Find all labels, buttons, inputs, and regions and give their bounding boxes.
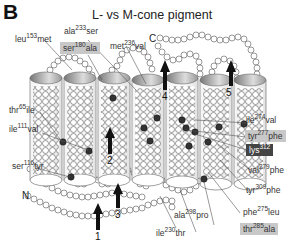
helix-tm2 [64,72,96,186]
label-tyr309phe: tyr309phe [246,185,281,195]
breakpoint-number-2: 2 [107,155,113,166]
breakpoint-number-4: 4 [162,91,168,102]
label-val279phe: val279phe [248,165,284,175]
label-ile274val: ile274val [246,115,276,125]
c-terminus-label: C [149,33,156,44]
label-ser180ala: ser180ala [60,42,100,54]
label-ile111val: ile111val [9,124,38,134]
label-leu153met: leu153met [15,34,51,44]
label-thr65ile: thr65ile [9,105,35,115]
label-met236val: met236val [110,41,146,51]
label-ser116tyr: ser116tyr [12,161,44,171]
label-tyr277phe: tyr277phe [245,130,286,142]
helix-tm4 [132,74,164,186]
breakpoint-number-1: 1 [95,231,101,242]
helix-tm3 [98,72,130,186]
label-phe275leu: phe275leu [243,207,279,217]
label-thr285ala: thr285ala [240,223,278,235]
label-ala298pro: ala298pro [174,210,209,220]
label-lys312: lys312 [246,144,273,156]
n-terminus-label: N [22,190,29,201]
label-ile230thr: ile230thr [156,228,185,238]
breakpoint-number-5: 5 [226,87,232,98]
label-ala233ser: ala233ser [64,26,98,36]
breakpoint-number-3: 3 [115,209,121,220]
